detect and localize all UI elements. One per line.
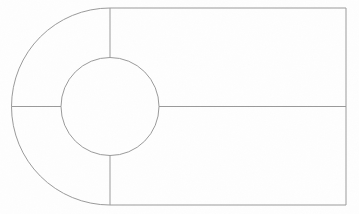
line-drawing [0, 0, 359, 214]
drawing-canvas [0, 0, 359, 214]
center-circle [61, 58, 159, 156]
